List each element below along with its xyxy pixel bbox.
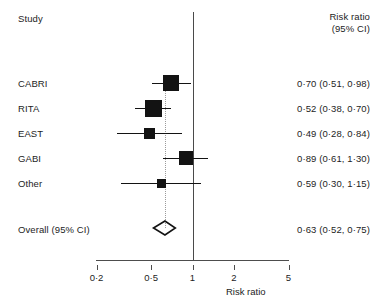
- effect-marker-box: [145, 100, 162, 117]
- x-axis-tick-label: 2: [231, 272, 236, 283]
- overall-estimate-label: 0·63 (0·52, 0·75): [297, 224, 370, 235]
- column-header-risk-ratio: Risk ratio: [329, 11, 370, 22]
- x-axis-tick-label: 0·5: [144, 272, 158, 283]
- estimate-label-cabri: 0·70 (0·51, 0·98): [297, 78, 370, 89]
- study-label-gabi: GABI: [18, 153, 41, 164]
- study-label-cabri: CABRI: [18, 78, 48, 89]
- x-axis-tick-label: 0·2: [90, 272, 104, 283]
- x-axis-tick: [151, 265, 152, 270]
- estimate-label-other: 0·59 (0·30, 1·15): [297, 178, 370, 189]
- forest-plot: Study Risk ratio (95% CI) CABRI0·70 (0·5…: [0, 0, 379, 307]
- estimate-label-gabi: 0·89 (0·61, 1·30): [297, 153, 370, 164]
- study-label-other: Other: [18, 178, 42, 189]
- effect-marker-box: [163, 75, 179, 91]
- column-header-study: Study: [18, 13, 43, 24]
- estimate-label-rita: 0·52 (0·38, 0·70): [297, 103, 370, 114]
- study-label-east: EAST: [18, 128, 43, 139]
- overall-diamond: [140, 218, 200, 238]
- x-axis-tick: [193, 265, 194, 270]
- effect-marker-box: [179, 151, 193, 165]
- study-label-rita: RITA: [18, 103, 39, 114]
- x-axis-tick-label: 5: [286, 272, 291, 283]
- x-axis-title: Risk ratio: [226, 286, 266, 297]
- effect-marker-box: [157, 179, 166, 188]
- x-axis-tick: [234, 265, 235, 270]
- effect-marker-box: [144, 128, 155, 139]
- x-axis-tick: [97, 265, 98, 270]
- overall-label: Overall (95% CI): [18, 224, 90, 235]
- x-axis-tick: [289, 265, 290, 270]
- estimate-label-east: 0·49 (0·28, 0·84): [297, 128, 370, 139]
- column-header-confidence-interval: (95% CI): [332, 23, 370, 34]
- x-axis-tick-label: 1: [190, 272, 195, 283]
- x-axis-line: [96, 260, 289, 261]
- overall-effect-dotted-line: [165, 82, 167, 228]
